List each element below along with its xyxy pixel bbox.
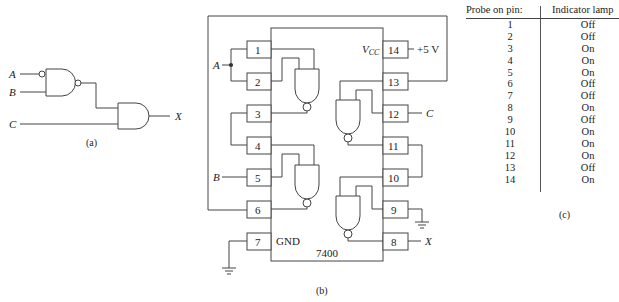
ground-icon-2 bbox=[415, 222, 429, 228]
table-row: 3On bbox=[466, 43, 619, 55]
row-lamp: On bbox=[573, 126, 603, 138]
table-row: 9Off bbox=[466, 114, 619, 126]
wire-a-to-pins-1-2 bbox=[231, 49, 247, 81]
row-pin: 6 bbox=[500, 78, 520, 90]
row-pin: 8 bbox=[500, 102, 520, 114]
pin-13-label: 13 bbox=[388, 76, 400, 88]
pin-3-label: 3 bbox=[255, 108, 261, 120]
row-lamp: On bbox=[573, 55, 603, 67]
nand-output-bubble-icon bbox=[75, 80, 81, 86]
input-inverter-bubble-icon bbox=[39, 71, 45, 77]
gate-2-output-bubble-icon bbox=[303, 199, 311, 207]
row-lamp: On bbox=[573, 43, 603, 55]
row-lamp: Off bbox=[573, 90, 603, 102]
gnd-label: GND bbox=[276, 235, 300, 247]
row-lamp: Off bbox=[573, 162, 603, 174]
header-probe-on-pin: Probe on pin: bbox=[466, 4, 523, 15]
row-pin: 5 bbox=[500, 67, 520, 79]
nand-gate-icon bbox=[46, 69, 76, 96]
row-lamp: Off bbox=[573, 114, 603, 126]
row-lamp: On bbox=[573, 102, 603, 114]
caption-a: (a) bbox=[86, 137, 97, 148]
table-row: 11On bbox=[466, 138, 619, 150]
wire-pin7-gnd bbox=[229, 241, 247, 268]
table-row: 5On bbox=[466, 67, 619, 79]
row-pin: 4 bbox=[500, 55, 520, 67]
row-lamp: On bbox=[573, 138, 603, 150]
chip-input-b-label: B bbox=[213, 171, 220, 183]
wire-nand-to-and bbox=[81, 83, 118, 108]
pin-10-label: 10 bbox=[388, 172, 400, 184]
pin-14-label: 14 bbox=[388, 44, 400, 56]
nand-gate-3-icon bbox=[336, 100, 360, 134]
row-lamp: On bbox=[573, 174, 603, 186]
pin-11-label: 11 bbox=[388, 140, 399, 152]
chip-part-number: 7400 bbox=[316, 247, 339, 259]
pin-6-label: 6 bbox=[255, 204, 261, 216]
row-lamp: Off bbox=[573, 78, 603, 90]
supply-label: +5 V bbox=[417, 43, 439, 55]
table-row: 8On bbox=[466, 102, 619, 114]
figure-a-circuit: A B C X bbox=[8, 68, 183, 130]
row-pin: 11 bbox=[500, 138, 520, 150]
gate-1-output-bubble-icon bbox=[303, 103, 311, 111]
row-lamp: Off bbox=[573, 19, 603, 31]
row-pin: 2 bbox=[500, 31, 520, 43]
probe-results-table: Probe on pin: Indicator lamp 1Off 2Off 3… bbox=[466, 2, 619, 185]
chip-output-x-label: X bbox=[424, 235, 433, 247]
table-row: 14On bbox=[466, 174, 619, 186]
chip-input-a-label: A bbox=[212, 59, 220, 71]
wire-pin3-to-pin4 bbox=[231, 113, 247, 145]
figure-b-chip-wiring: 1 2 3 4 5 6 7 14 13 12 11 10 9 8 A B bbox=[208, 16, 447, 274]
output-x-label: X bbox=[174, 110, 183, 122]
caption-c: (c) bbox=[559, 209, 570, 220]
caption-b: (b) bbox=[316, 285, 328, 296]
table-header: Probe on pin: Indicator lamp bbox=[466, 2, 619, 19]
row-pin: 9 bbox=[500, 114, 520, 126]
nand-gate-1-icon bbox=[295, 69, 319, 103]
row-pin: 12 bbox=[500, 150, 520, 162]
row-lamp: On bbox=[573, 150, 603, 162]
input-c-label: C bbox=[9, 118, 17, 130]
table-row: 13Off bbox=[466, 162, 619, 174]
gate-3-output-bubble-icon bbox=[344, 134, 352, 142]
input-b-label: B bbox=[9, 86, 16, 98]
header-indicator-lamp: Indicator lamp bbox=[552, 4, 614, 15]
table-row: 10On bbox=[466, 126, 619, 138]
row-pin: 7 bbox=[500, 90, 520, 102]
table-row: 12On bbox=[466, 150, 619, 162]
table-row: 7Off bbox=[466, 90, 619, 102]
wire-pin9-gnd bbox=[408, 209, 422, 222]
chip-input-c-label: C bbox=[426, 107, 434, 119]
pin-8-label: 8 bbox=[391, 236, 397, 248]
nand-gate-2-icon bbox=[295, 165, 319, 199]
ground-icon bbox=[222, 268, 236, 274]
row-pin: 14 bbox=[500, 174, 520, 186]
row-lamp: On bbox=[573, 67, 603, 79]
row-lamp: Off bbox=[573, 31, 603, 43]
table-row: 2Off bbox=[466, 31, 619, 43]
gate-4-output-bubble-icon bbox=[344, 230, 352, 238]
pin-9-label: 9 bbox=[391, 204, 397, 216]
nand-gate-4-icon bbox=[336, 196, 360, 230]
pin-7-label: 7 bbox=[255, 236, 261, 248]
table-row: 4On bbox=[466, 55, 619, 67]
row-pin: 3 bbox=[500, 43, 520, 55]
row-pin: 10 bbox=[500, 126, 520, 138]
row-pin: 13 bbox=[500, 162, 520, 174]
table-row: 6Off bbox=[466, 78, 619, 90]
pin-2-label: 2 bbox=[255, 76, 261, 88]
row-pin: 1 bbox=[500, 19, 520, 31]
pin-5-label: 5 bbox=[255, 172, 261, 184]
input-a-label: A bbox=[8, 68, 16, 80]
and-gate-icon bbox=[118, 103, 149, 129]
pin-1-label: 1 bbox=[255, 44, 261, 56]
pin-12-label: 12 bbox=[388, 108, 399, 120]
table-row: 1Off bbox=[466, 19, 619, 31]
pin-4-label: 4 bbox=[255, 140, 261, 152]
wire-pin11-to-pin10 bbox=[408, 145, 422, 177]
